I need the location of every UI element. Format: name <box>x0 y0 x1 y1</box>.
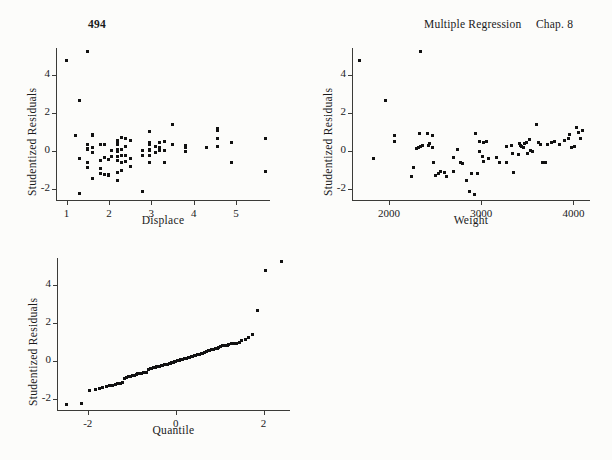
data-point <box>88 389 91 392</box>
data-point <box>80 402 83 405</box>
data-point <box>247 336 250 339</box>
x-axis-tick-label: 0 <box>151 417 201 429</box>
data-point <box>145 371 148 374</box>
data-point <box>256 309 259 312</box>
y-axis-tick-label: -2 <box>33 391 51 403</box>
y-axis-line <box>57 258 58 410</box>
y-axis-tick <box>53 323 58 324</box>
data-point <box>121 381 124 384</box>
data-point <box>251 333 254 336</box>
y-axis-tick-label: 2 <box>33 315 51 327</box>
y-axis-tick-label: 4 <box>33 277 51 289</box>
data-point <box>65 403 68 406</box>
x-axis-line <box>57 410 290 411</box>
x-axis-tick <box>264 410 265 415</box>
y-axis-tick <box>53 285 58 286</box>
x-axis-tick-label: 2 <box>239 417 289 429</box>
chart-normal-quantile-plot: Studentized Residuals Quantile -2024-202 <box>0 0 612 460</box>
data-point <box>264 269 267 272</box>
x-axis-tick-label: -2 <box>63 417 113 429</box>
data-point <box>280 260 283 263</box>
x-axis-tick <box>176 410 177 415</box>
y-axis-tick-label: 0 <box>33 353 51 365</box>
x-axis-tick <box>88 410 89 415</box>
y-axis-tick <box>53 399 58 400</box>
y-axis-tick <box>53 361 58 362</box>
textbook-figure-page: 494 Multiple Regression Chap. 8 Studenti… <box>0 0 612 460</box>
